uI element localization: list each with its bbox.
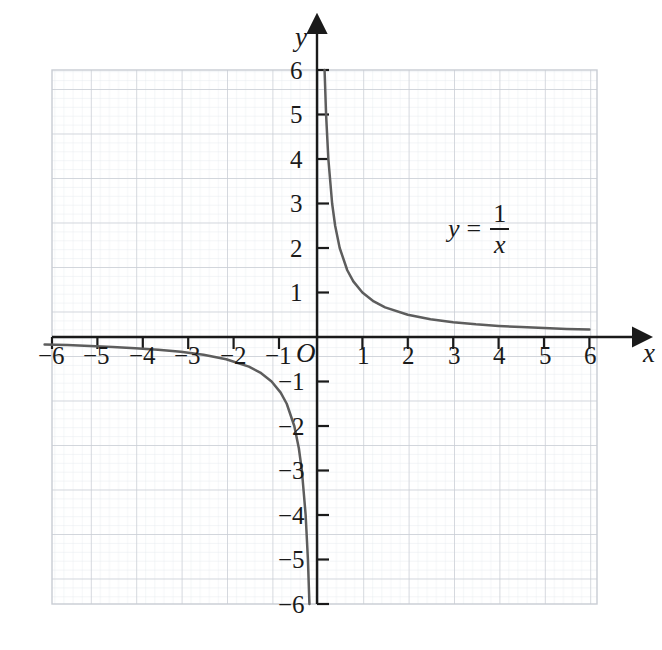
y-tick-label-5: 5 [290,102,303,127]
coordinate-plane [0,0,662,650]
x-tick-label-2: 2 [402,343,415,368]
fraction-denominator: x [491,230,509,258]
equation-relation: = [467,216,491,242]
x-tick-label--1: −1 [265,343,292,368]
y-tick-label--6: −6 [278,592,305,617]
y-tick-label-6: 6 [290,58,303,83]
x-tick-label-5: 5 [539,343,552,368]
y-tick-label-4: 4 [290,147,303,172]
y-tick-label-1: 1 [290,280,303,305]
y-tick-label--3: −3 [278,458,305,483]
y-tick-label-3: 3 [290,191,303,216]
x-tick-label--5: −5 [83,343,110,368]
x-tick-label-1: 1 [357,343,370,368]
x-tick-label--6: −6 [38,343,65,368]
x-tick-label--3: −3 [174,343,201,368]
origin-label: O [296,340,316,367]
y-tick-label--4: −4 [278,503,305,528]
y-tick-label--2: −2 [278,414,305,439]
equation-fraction: 1 x [490,200,509,258]
y-tick-label--1: −1 [278,369,305,394]
x-tick-label--4: −4 [129,343,156,368]
x-tick-label-6: 6 [584,343,597,368]
x-tick-label-4: 4 [493,343,506,368]
x-axis-label: x [643,340,655,367]
x-tick-label-3: 3 [448,343,461,368]
fraction-numerator: 1 [490,200,509,228]
graph-figure: −6 −5 −4 −3 −2 −1 1 2 3 4 5 6 6 5 4 3 2 … [0,0,662,650]
y-tick-label-2: 2 [290,236,303,261]
x-tick-label--2: −2 [220,343,247,368]
equation-lhs: y [448,216,467,242]
y-tick-label--5: −5 [278,547,305,572]
y-axis-label: y [295,24,307,51]
equation-annotation: y = 1 x [448,200,509,258]
